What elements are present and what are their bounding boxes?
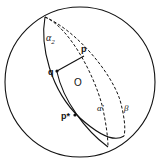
label-p-star: p*	[61, 111, 70, 121]
great-circle-beta-back	[45, 17, 125, 136]
point-p-star	[73, 113, 76, 116]
point-q	[55, 69, 58, 72]
label-p: p	[81, 44, 87, 54]
label-O: O	[74, 77, 82, 88]
label-alpha-prime: α'	[97, 103, 105, 113]
sphere-diagram: α2 p q O α' β p*	[0, 0, 160, 162]
label-q: q	[48, 67, 54, 77]
segment-pq	[57, 56, 84, 71]
label-alpha2: α2	[46, 32, 55, 46]
label-beta: β	[123, 103, 129, 113]
great-circle-alpha2-front	[44, 17, 124, 138]
